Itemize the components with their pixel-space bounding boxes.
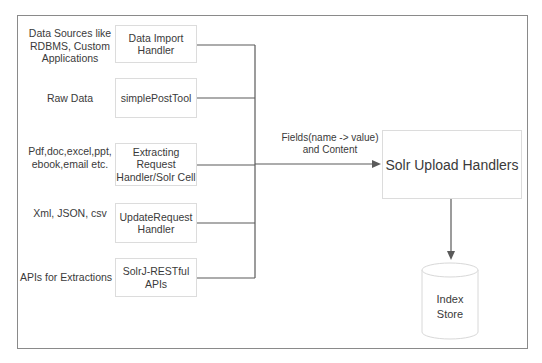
arrowhead-right-icon xyxy=(372,160,381,168)
label-line: and Content xyxy=(280,144,380,156)
label-line: SolrJ-RESTful xyxy=(123,265,190,278)
label-line: simplePostTool xyxy=(121,92,192,105)
handler-solrj-restful: SolrJ-RESTful APIs xyxy=(115,258,197,297)
solr-upload-handlers-label: Solr Upload Handlers xyxy=(385,157,518,173)
arrowhead-down-icon xyxy=(447,251,455,260)
label-line: Index xyxy=(422,292,478,307)
label-line: Handler xyxy=(120,223,193,236)
label-line: Extracting xyxy=(116,146,195,159)
label-line: UpdateRequest xyxy=(120,211,193,224)
source-label-documents: Pdf,doc,excel,ppt, ebook,email etc. xyxy=(18,145,122,170)
index-store-label: Index Store xyxy=(422,292,478,322)
label-line: Pdf,doc,excel,ppt, xyxy=(18,145,122,158)
label-line: Request xyxy=(116,158,195,171)
flow-label: Fields(name -> value) and Content xyxy=(280,132,380,156)
handler-update-request: UpdateRequest Handler xyxy=(115,203,197,243)
handler-data-import: Data Import Handler xyxy=(115,25,197,63)
label-line: Fields(name -> value) xyxy=(280,132,380,144)
label-line: Handler xyxy=(129,44,184,57)
source-label-apis: APIs for Extractions xyxy=(18,271,114,284)
source-label-raw-data: Raw Data xyxy=(20,92,120,105)
label-line: Store xyxy=(422,307,478,322)
label-line: Raw Data xyxy=(20,92,120,105)
label-line: APIs for Extractions xyxy=(18,271,114,284)
label-line: Applications xyxy=(20,52,120,65)
label-line: Handler/Solr Cell xyxy=(116,171,195,184)
label-line: Xml, JSON, csv xyxy=(20,207,120,220)
source-label-data-sources: Data Sources like RDBMS, Custom Applicat… xyxy=(20,27,120,65)
solr-upload-handlers-box: Solr Upload Handlers xyxy=(382,130,522,199)
label-line: RDBMS, Custom xyxy=(20,40,120,53)
handler-extracting-request: Extracting Request Handler/Solr Cell xyxy=(115,143,197,186)
label-line: APIs xyxy=(123,278,190,291)
label-line: ebook,email etc. xyxy=(18,158,122,171)
handler-simple-post-tool: simplePostTool xyxy=(115,78,197,118)
label-line: Data Import xyxy=(129,32,184,45)
source-label-xml-json-csv: Xml, JSON, csv xyxy=(20,207,120,220)
label-line: Data Sources like xyxy=(20,27,120,40)
